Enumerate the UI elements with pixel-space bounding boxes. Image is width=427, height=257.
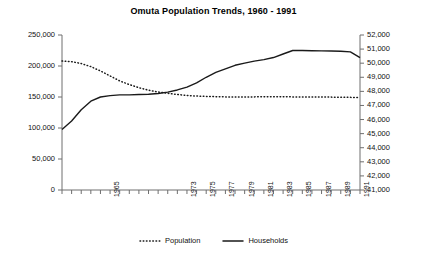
x-axis-tick-label: 1979 bbox=[248, 181, 255, 197]
y-axis-right-tick-label: 52,000 bbox=[367, 30, 390, 39]
y-axis-right-tick-label: 48,000 bbox=[367, 86, 390, 95]
y-axis-right-tick-label: 43,000 bbox=[367, 157, 390, 166]
solid-line-key bbox=[222, 237, 244, 245]
y-axis-left-tick-label: 100,000 bbox=[0, 123, 55, 132]
x-axis-tick-label: 1989 bbox=[344, 181, 351, 197]
y-axis-left-tick-label: 0 bbox=[0, 185, 55, 194]
y-axis-left-tick-label: 50,000 bbox=[0, 154, 55, 163]
legend-item-population[interactable]: Population bbox=[139, 236, 200, 245]
chart-plot-area bbox=[0, 0, 427, 257]
y-axis-right-tick-label: 44,000 bbox=[367, 143, 390, 152]
legend-item-households[interactable]: Households bbox=[222, 236, 288, 245]
y-axis-right-tick-label: 41,000 bbox=[367, 185, 390, 194]
dotted-line-key bbox=[139, 237, 161, 245]
y-axis-right-tick-label: 50,000 bbox=[367, 58, 390, 67]
x-axis-tick-label: 1987 bbox=[325, 181, 332, 197]
y-axis-right-tick-label: 46,000 bbox=[367, 115, 390, 124]
y-axis-right-tick-label: 47,000 bbox=[367, 100, 390, 109]
x-axis-tick-label: 1977 bbox=[228, 181, 235, 197]
series-line-population bbox=[62, 61, 360, 97]
y-axis-left-tick-label: 150,000 bbox=[0, 92, 55, 101]
legend-item-label: Households bbox=[248, 236, 288, 245]
x-axis-tick-label: 1973 bbox=[190, 181, 197, 197]
y-axis-left-tick-label: 250,000 bbox=[0, 30, 55, 39]
x-axis-tick-label: 1965 bbox=[113, 181, 120, 197]
y-axis-right-tick-label: 51,000 bbox=[367, 44, 390, 53]
y-axis-right-tick-label: 45,000 bbox=[367, 129, 390, 138]
chart-legend: PopulationHouseholds bbox=[0, 236, 427, 245]
x-axis-tick-label: 1991 bbox=[363, 181, 370, 197]
x-axis-tick-label: 1975 bbox=[209, 181, 216, 197]
series-line-households bbox=[62, 51, 360, 130]
x-axis-tick-label: 1981 bbox=[267, 181, 274, 197]
y-axis-right-tick-label: 42,000 bbox=[367, 171, 390, 180]
y-axis-left-tick-label: 200,000 bbox=[0, 61, 55, 70]
x-axis-tick-label: 1985 bbox=[305, 181, 312, 197]
legend-item-label: Population bbox=[165, 236, 200, 245]
y-axis-right-tick-label: 49,000 bbox=[367, 72, 390, 81]
x-axis-tick-label: 1983 bbox=[286, 181, 293, 197]
chart-container: Omuta Population Trends, 1960 - 1991 Pop… bbox=[0, 0, 427, 257]
